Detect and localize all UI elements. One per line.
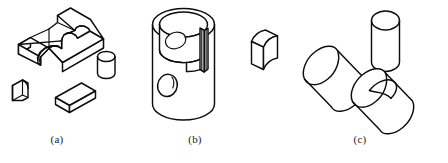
- figure-container: (a) (b) (c): [0, 0, 448, 163]
- part-curved-block: [13, 80, 29, 101]
- part-drilled-cylinder: [351, 69, 413, 134]
- panel-b-group: [153, 9, 278, 121]
- panel-a-group: [13, 8, 116, 113]
- part-hollow-cylinder: [153, 9, 215, 121]
- caption-panel-a: (a): [27, 131, 87, 147]
- caption-panel-b: (b): [165, 131, 225, 147]
- caption-row: (a) (b) (c): [0, 131, 448, 155]
- caption-panel-c: (c): [330, 131, 390, 147]
- part-curved-segment-block: [252, 30, 278, 70]
- part-short-cylinder: [98, 52, 116, 79]
- part-rectangular-bar: [56, 83, 96, 113]
- part-upright-cylinder: [372, 11, 400, 72]
- part-slotted-block: [19, 8, 104, 72]
- panel-c-group: [303, 11, 413, 134]
